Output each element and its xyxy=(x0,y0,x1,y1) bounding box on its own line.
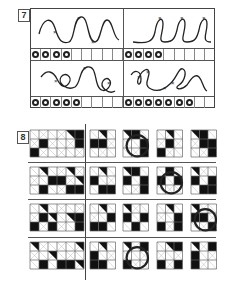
strip-cell xyxy=(103,49,113,60)
answer-option xyxy=(122,129,150,158)
strip-cell xyxy=(113,97,123,108)
curve-top-right: × × × xyxy=(127,12,213,47)
answer-option xyxy=(156,203,184,232)
svg-text:×: × xyxy=(107,80,111,86)
pattern-grid xyxy=(29,129,85,158)
svg-text:×: × xyxy=(163,85,167,91)
strip-cell xyxy=(154,97,164,108)
answer-option xyxy=(190,241,218,270)
strip-cell xyxy=(205,97,214,108)
strip-cell xyxy=(134,97,144,108)
strip-cell xyxy=(41,49,51,60)
curve-bottom-left: × × × xyxy=(35,63,121,97)
svg-text:×: × xyxy=(77,15,81,21)
svg-text:×: × xyxy=(180,15,184,21)
section-7-number: 7 xyxy=(18,9,30,22)
ring-icon xyxy=(165,99,172,106)
strip-cell xyxy=(103,97,113,108)
answer-option xyxy=(156,166,184,195)
strip-cell xyxy=(134,49,144,60)
svg-text:×: × xyxy=(158,15,162,21)
section-8-row-divider xyxy=(28,162,216,163)
strip-cell xyxy=(144,49,154,60)
ring-icon xyxy=(63,51,70,58)
strip-cell xyxy=(185,97,195,108)
section-7-frame: × × × × × × × × × xyxy=(30,8,215,108)
ring-icon xyxy=(155,99,162,106)
svg-text:×: × xyxy=(91,39,95,45)
strip-cell xyxy=(175,49,185,60)
curve-bottom-right: × × × × xyxy=(127,63,213,97)
strip-cell xyxy=(164,49,174,60)
strip-cell xyxy=(31,49,41,60)
svg-text:×: × xyxy=(54,78,58,84)
ring-icon xyxy=(176,99,183,106)
strip-cell xyxy=(164,97,174,108)
svg-text:×: × xyxy=(53,29,57,35)
ring-strip-top-left xyxy=(31,48,123,60)
answer-option xyxy=(156,129,184,158)
ring-icon xyxy=(42,51,49,58)
ring-icon xyxy=(53,51,60,58)
strip-cell xyxy=(41,97,51,108)
strip-cell xyxy=(175,97,185,108)
answer-option xyxy=(89,166,117,195)
strip-cell xyxy=(82,97,92,108)
strip-cell xyxy=(185,49,195,60)
answer-option xyxy=(89,241,117,270)
strip-cell xyxy=(72,97,82,108)
ring-icon xyxy=(32,99,39,106)
ring-icon xyxy=(186,99,193,106)
ring-icon xyxy=(73,99,80,106)
pattern-grid xyxy=(29,203,85,232)
svg-text:×: × xyxy=(202,15,206,21)
strip-cell xyxy=(154,49,164,60)
section-8-row-divider xyxy=(28,199,216,200)
answer-option xyxy=(122,241,150,270)
strip-cell xyxy=(195,49,205,60)
strip-cell xyxy=(195,97,205,108)
strip-cell xyxy=(51,97,61,108)
svg-text:×: × xyxy=(146,69,150,75)
ring-icon xyxy=(155,51,162,58)
strip-cell xyxy=(144,97,154,108)
answer-option xyxy=(89,203,117,232)
pattern-grid xyxy=(29,241,85,270)
answer-option xyxy=(122,203,150,232)
strip-cell xyxy=(124,49,134,60)
svg-text:×: × xyxy=(171,80,175,86)
strip-cell xyxy=(205,49,214,60)
pattern-grid xyxy=(29,166,85,195)
section-8-vertical-divider xyxy=(85,124,86,280)
ring-icon xyxy=(125,99,132,106)
curve-top-left: × × × xyxy=(35,12,121,47)
strip-cell xyxy=(31,97,41,108)
ring-icon xyxy=(63,99,70,106)
strip-cell xyxy=(62,97,72,108)
answer-option xyxy=(190,166,218,195)
strip-cell xyxy=(92,97,102,108)
strip-cell xyxy=(92,49,102,60)
ring-icon xyxy=(145,99,152,106)
answer-option xyxy=(190,129,218,158)
section-8-row-divider xyxy=(28,237,216,238)
strip-cell xyxy=(72,49,82,60)
ring-strip-top-right xyxy=(124,48,214,60)
strip-cell xyxy=(51,49,61,60)
strip-cell xyxy=(124,97,134,108)
svg-text:×: × xyxy=(83,65,87,71)
ring-icon xyxy=(135,51,142,58)
answer-option xyxy=(156,241,184,270)
answer-option xyxy=(89,129,117,158)
ring-icon xyxy=(125,51,132,58)
strip-cell xyxy=(82,49,92,60)
answer-option xyxy=(190,203,218,232)
section-8-number: 8 xyxy=(17,131,29,144)
ring-icon xyxy=(145,51,152,58)
ring-icon xyxy=(135,99,142,106)
ring-icon xyxy=(53,99,60,106)
strip-cell xyxy=(113,49,123,60)
svg-text:×: × xyxy=(137,74,141,80)
section-7-horizontal-divider xyxy=(31,60,214,61)
ring-icon xyxy=(32,51,39,58)
